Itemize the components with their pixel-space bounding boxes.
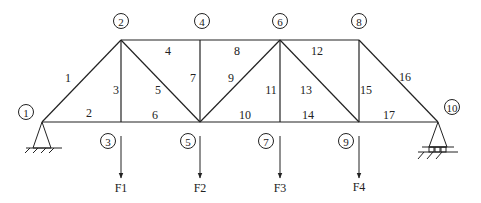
node-4: 4	[195, 14, 210, 29]
node-label: 6	[277, 16, 283, 28]
node-10: 10	[445, 100, 460, 115]
member-5	[121, 40, 200, 122]
member-label: 10	[239, 108, 251, 122]
node-6: 6	[273, 14, 288, 29]
node-label: 9	[343, 136, 349, 148]
truss-canvas: 1234567891011121314151617 12345678910 F1…	[0, 0, 481, 203]
member-label: 13	[300, 83, 312, 97]
member-label: 16	[399, 70, 411, 84]
member-label: 7	[190, 71, 196, 85]
member-label: 11	[265, 83, 277, 97]
load-f1: F1	[115, 136, 128, 195]
load-f2: F2	[194, 136, 207, 195]
node-2: 2	[114, 14, 129, 29]
node-label: 2	[118, 16, 124, 28]
loads-group: F1F2F3F4	[115, 136, 366, 195]
node-9: 9	[339, 134, 354, 149]
node-label: 1	[23, 107, 29, 119]
load-label: F2	[194, 181, 207, 195]
node-label: 4	[199, 16, 205, 28]
member-label: 3	[113, 83, 119, 97]
node-1: 1	[19, 105, 34, 120]
load-f4: F4	[353, 136, 366, 194]
node-label: 10	[447, 102, 459, 114]
load-label: F4	[353, 180, 366, 194]
member-label: 4	[165, 44, 171, 58]
node-5: 5	[181, 134, 196, 149]
roller-support-icon	[418, 122, 458, 159]
member-label: 8	[234, 44, 240, 58]
node-label: 3	[105, 136, 111, 148]
load-label: F1	[115, 181, 128, 195]
member-label: 15	[360, 83, 372, 97]
truss-diagram: 1234567891011121314151617 12345678910 F1…	[0, 0, 481, 203]
load-f3: F3	[274, 136, 287, 195]
supports-group	[25, 122, 458, 159]
member-label: 14	[302, 108, 314, 122]
node-label: 5	[185, 136, 191, 148]
load-label: F3	[274, 181, 287, 195]
node-7: 7	[259, 134, 274, 149]
member-label: 1	[65, 71, 71, 85]
node-8: 8	[352, 14, 367, 29]
member-label: 2	[86, 106, 92, 120]
node-label: 8	[356, 16, 362, 28]
member-label: 17	[383, 108, 395, 122]
node-label: 7	[263, 136, 269, 148]
node-3: 3	[101, 134, 116, 149]
member-label: 6	[152, 108, 158, 122]
member-label: 9	[228, 71, 234, 85]
member-label: 5	[155, 83, 161, 97]
pin-support-icon	[25, 122, 62, 153]
member-label: 12	[311, 44, 323, 58]
nodes-group: 12345678910	[19, 14, 460, 149]
member-1	[42, 40, 121, 122]
